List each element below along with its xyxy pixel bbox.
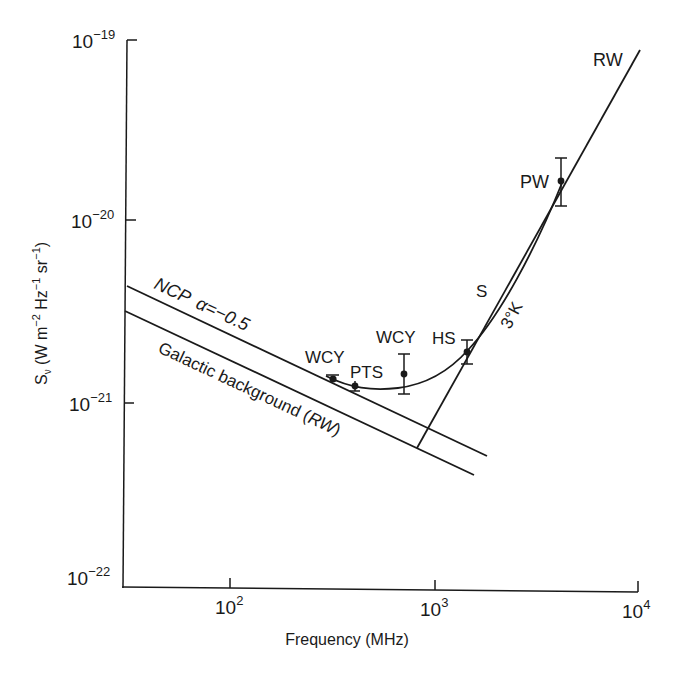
x-axis-title: Frequency (MHz) [285,631,409,648]
ncp-line [127,286,487,456]
x-label-10000: 104 [622,597,650,622]
s-label: S [476,282,487,301]
x-label-100: 102 [215,593,243,618]
s-curve [326,183,562,389]
x-label-1000: 103 [420,595,448,620]
pw-label: PW [520,172,549,192]
y-label-1e-21: 10−21 [69,390,112,415]
three-kelvin-line [417,50,640,448]
galactic-background-line [125,311,474,475]
y-label-1e-19: 10−19 [72,27,115,52]
wcy-label-1: WCY [305,348,345,367]
rw-label: RW [593,50,623,70]
y-label-1e-22: 10−22 [67,564,110,589]
wcy-label-2: WCY [376,328,416,347]
y-label-1e-20: 10−20 [71,207,114,232]
y-axis-title: Sν (W m−2 Hz−1 sr−1) [30,242,53,385]
pts-label: PTS [350,363,383,382]
hs-label: HS [432,329,456,348]
spectrum-chart: 10−19 10−20 10−21 10−22 102 103 104 Freq… [0,0,680,677]
x-axis [122,578,638,592]
three-kelvin-label: 3°K [497,298,527,332]
